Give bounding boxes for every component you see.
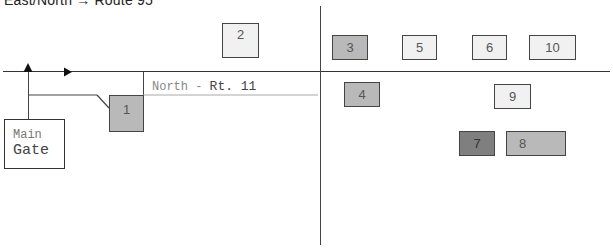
route-label: North - Rt. 11 xyxy=(152,79,256,94)
lot-9[interactable]: 9 xyxy=(494,84,531,109)
lot-2[interactable]: 2 xyxy=(222,23,259,58)
main-gate-label-line1: Main xyxy=(13,128,42,142)
route-number: Rt. 11 xyxy=(210,79,257,94)
lot-4-label: 4 xyxy=(358,87,365,102)
lot-4[interactable]: 4 xyxy=(344,82,380,107)
lot-10-label: 10 xyxy=(545,40,559,55)
lot-10[interactable]: 10 xyxy=(529,35,576,60)
arrow-up-icon xyxy=(24,63,33,72)
lot-1-label: 1 xyxy=(123,102,130,117)
lot-5[interactable]: 5 xyxy=(402,35,437,60)
road-overlay xyxy=(0,0,613,251)
lot-7-label: 7 xyxy=(473,136,480,151)
lot-5-label: 5 xyxy=(416,40,423,55)
lot-9-label: 9 xyxy=(509,89,516,104)
arrow-right-icon xyxy=(64,68,72,77)
main-gate-label-line2: Gate xyxy=(13,142,49,160)
lot-8-label: 8 xyxy=(519,136,526,151)
lot-3[interactable]: 3 xyxy=(332,35,368,60)
lot-6-label: 6 xyxy=(486,40,493,55)
lot-8[interactable]: 8 xyxy=(506,131,566,156)
lot-1[interactable]: 1 xyxy=(109,95,144,132)
lot-3-label: 3 xyxy=(346,40,353,55)
main-gate[interactable]: Main Gate xyxy=(4,119,65,169)
route-direction: North - xyxy=(152,80,210,94)
lot-7[interactable]: 7 xyxy=(459,131,495,156)
lot-6[interactable]: 6 xyxy=(472,35,507,60)
lot-2-label: 2 xyxy=(237,27,244,42)
